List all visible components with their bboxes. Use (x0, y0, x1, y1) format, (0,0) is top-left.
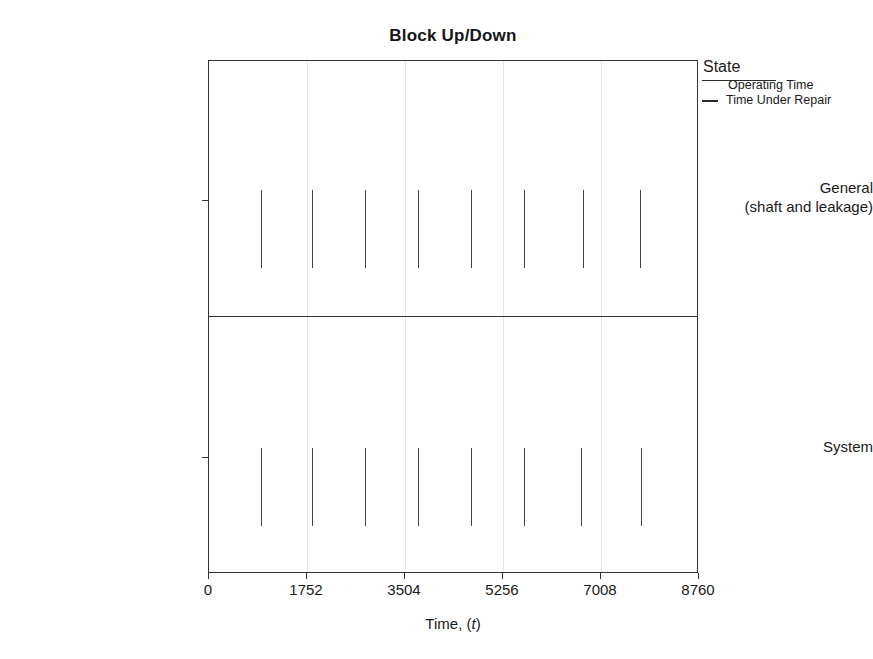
y-axis-label-general-main: General (673, 178, 873, 197)
repair-segment (365, 448, 366, 526)
legend-swatch-repair-dash-icon (702, 94, 776, 106)
x-tick-7008 (600, 573, 601, 579)
panel-general (209, 61, 697, 316)
x-tick-5256 (502, 573, 503, 579)
repair-segment (261, 190, 262, 268)
x-tick-label-8760: 8760 (681, 581, 714, 598)
y-axis-label-system: System (673, 437, 873, 456)
repair-segment (418, 448, 419, 526)
repair-segment (640, 190, 641, 268)
repair-segment (365, 190, 366, 268)
repair-segment (524, 190, 525, 268)
x-tick-8760 (698, 573, 699, 579)
x-axis-title: Time, (t) (208, 615, 698, 632)
x-tick-label-1752: 1752 (289, 581, 322, 598)
repair-segment (583, 190, 584, 268)
repair-segment (581, 448, 582, 526)
chart-title: Block Up/Down (208, 26, 698, 46)
plot-area (208, 60, 698, 573)
repair-segment (312, 190, 313, 268)
repair-segment (261, 448, 262, 526)
repair-segment (418, 190, 419, 268)
x-tick-label-0: 0 (204, 581, 212, 598)
legend-item-time-under-repair: Time Under Repair (702, 92, 867, 107)
y-axis-label-general: General (shaft and leakage) (673, 178, 873, 216)
repair-segment (641, 448, 642, 526)
x-tick-label-7008: 7008 (583, 581, 616, 598)
panel-system (209, 316, 697, 574)
legend-item-operating-time: Operating Time (702, 77, 867, 92)
x-tick-1752 (306, 573, 307, 579)
x-axis-title-prefix: Time, ( (425, 615, 471, 632)
legend-title: State (702, 58, 867, 76)
repair-segment (471, 190, 472, 268)
x-tick-3504 (404, 573, 405, 579)
chart-figure: Block Up/Down General (shaft and leakage… (0, 0, 873, 659)
y-axis-label-general-sub: (shaft and leakage) (673, 197, 873, 216)
repair-segment (524, 448, 525, 526)
repair-segment (471, 448, 472, 526)
legend-swatch-operating-line-icon (702, 79, 776, 91)
x-tick-0 (208, 573, 209, 579)
x-tick-label-5256: 5256 (485, 581, 518, 598)
y-axis-label-system-main: System (673, 437, 873, 456)
repair-segment (312, 448, 313, 526)
x-axis-title-suffix: ) (476, 615, 481, 632)
x-tick-label-3504: 3504 (387, 581, 420, 598)
legend: State Operating Time Time Under Repair (702, 58, 867, 107)
